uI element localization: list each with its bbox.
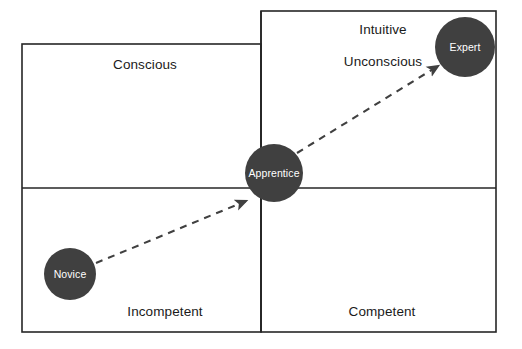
quadrant-label-competent: Competent (349, 304, 416, 319)
diagram-canvas (0, 0, 522, 349)
arrow-novice-to-apprentice (96, 201, 246, 263)
node-circle-novice[interactable] (44, 248, 96, 300)
arrow-apprentice-to-expert (297, 66, 438, 153)
quadrant-label-incompetent: Incompetent (127, 304, 202, 319)
node-circle-apprentice[interactable] (245, 144, 303, 202)
node-circle-expert[interactable] (435, 17, 495, 77)
quadrant-label-intuitive: Intuitive (359, 22, 406, 37)
quadrant-label-unconscious: Unconscious (344, 54, 422, 69)
quadrant-label-conscious: Conscious (113, 57, 177, 72)
skill-progression-diagram: ConsciousIntuitiveUnconsciousIncompetent… (0, 0, 522, 349)
